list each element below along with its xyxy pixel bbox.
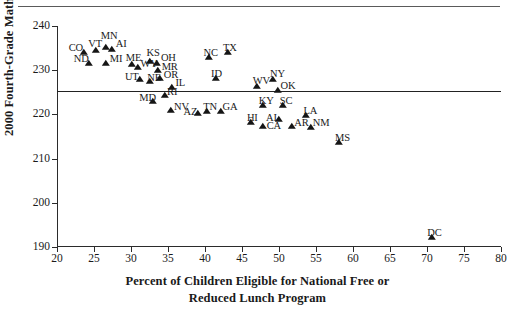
x-axis-title-line2: Reduced Lunch Program (189, 291, 326, 305)
x-tick-label: 30 (125, 253, 137, 265)
x-tick-label: 70 (421, 253, 433, 265)
y-tick (52, 159, 57, 160)
x-tick-label: 60 (347, 253, 359, 265)
data-point-label: LA (303, 106, 317, 117)
y-tick-label: 190 (33, 241, 50, 253)
y-axis-title: 2000 Fourth-Grade Math Score (2, 0, 17, 136)
data-point-label: RI (167, 87, 177, 98)
data-point-label: ME (126, 53, 142, 64)
top-rule-divider (18, 6, 500, 7)
y-tick-label: 230 (33, 64, 50, 76)
y-tick (52, 70, 57, 71)
x-tick-label: 25 (88, 253, 100, 265)
x-tick-label: 20 (51, 253, 63, 265)
data-point-label: CA (267, 121, 281, 132)
y-axis-line (57, 26, 58, 247)
y-tick (52, 203, 57, 204)
data-point-label: OK (281, 81, 296, 92)
x-tick-label: 55 (310, 253, 322, 265)
y-tick (52, 26, 57, 27)
data-point-label: AI (116, 39, 127, 50)
data-point-marker (259, 123, 267, 129)
data-point-label: NC (203, 48, 217, 59)
scatter-plot-area: 190200210220230240 202530354045505560657… (57, 26, 501, 247)
x-tick-label: 75 (458, 253, 470, 265)
data-point-label: DC (427, 228, 441, 239)
chart-figure: 2000 Fourth-Grade Math Score 19020021022… (0, 0, 515, 317)
x-axis-title-line1: Percent of Children Eligible for Nationa… (125, 274, 389, 288)
x-tick-label: 50 (273, 253, 285, 265)
y-tick (52, 114, 57, 115)
data-point-label: HI (247, 113, 258, 124)
x-tick-label: 35 (162, 253, 174, 265)
data-point-marker (108, 45, 116, 51)
data-point-label: ND (74, 54, 89, 65)
x-axis-title: Percent of Children Eligible for Nationa… (0, 273, 515, 306)
data-point-marker (102, 60, 110, 66)
data-point-label: WV (253, 76, 270, 87)
x-tick-label: 80 (495, 253, 507, 265)
data-point-label: NY (270, 69, 285, 80)
y-tick-label: 220 (33, 109, 50, 121)
data-point-label: CO (69, 43, 83, 54)
data-point-label: GA (223, 102, 238, 113)
data-point-label: MI (110, 54, 123, 65)
data-point-label: KS (147, 48, 160, 59)
data-point-label: MD (139, 93, 156, 104)
data-point-label: NM (313, 118, 330, 129)
y-tick-label: 200 (33, 197, 50, 209)
x-tick-label: 40 (199, 253, 211, 265)
data-point-label: ID (211, 69, 222, 80)
data-point-marker (153, 60, 161, 66)
data-point-label: TN (203, 102, 217, 113)
data-point-label: MS (335, 133, 350, 144)
data-point-label: NE (147, 73, 161, 84)
data-point-label: UT (125, 72, 139, 83)
x-tick-label: 45 (236, 253, 248, 265)
data-point-label: SC (280, 96, 293, 107)
y-tick-label: 210 (33, 153, 50, 165)
data-point-label: KY (259, 96, 274, 107)
data-point-label: AZ (184, 107, 198, 118)
data-point-label: TX (223, 43, 237, 54)
x-tick-label: 65 (384, 253, 396, 265)
y-tick-label: 240 (33, 20, 50, 32)
